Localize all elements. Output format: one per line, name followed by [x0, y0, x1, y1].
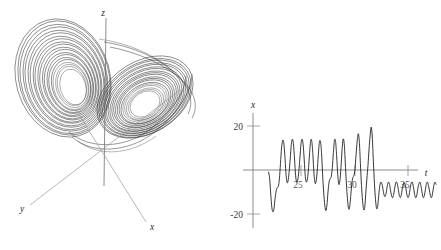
timeseries-curve [269, 127, 436, 212]
y-tick-label-20: 20 [234, 122, 244, 132]
attractor-right-wing [82, 39, 208, 155]
t-tick-label-25: 25 [293, 180, 303, 190]
z-axis-label: z [100, 8, 105, 18]
x-vs-t-timeseries: 20 -20 25 30 35 x t [230, 100, 436, 228]
ts-y-axis-label: x [250, 100, 256, 110]
x-axis-line [76, 110, 146, 222]
y-axis-label: y [19, 204, 25, 214]
lorenz-figure: z y x 20 -20 25 30 35 [0, 0, 441, 250]
lorenz-attractor-3d: z y x [1, 7, 208, 232]
y-tick-label-neg20: -20 [230, 210, 243, 220]
ts-x-axis-label: t [425, 168, 428, 178]
x-axis-label: x [149, 222, 155, 232]
